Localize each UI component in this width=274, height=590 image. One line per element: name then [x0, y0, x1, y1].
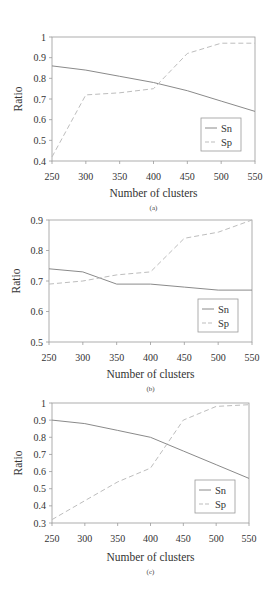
- x-tick-label: 500: [209, 533, 224, 544]
- x-tick-label: 300: [78, 171, 93, 182]
- x-tick-label: 550: [245, 352, 260, 363]
- figure: 0.40.50.60.70.80.91250300350400450500550…: [0, 0, 274, 590]
- chart-caption: (b): [146, 385, 155, 393]
- y-tick-label: 0.7: [31, 276, 44, 287]
- y-tick-label: 0.6: [34, 466, 47, 477]
- y-tick-label: 1: [41, 398, 46, 409]
- y-tick-label: 0.7: [34, 94, 47, 105]
- chart-a: 0.40.50.60.70.80.91250300350400450500550…: [12, 32, 263, 213]
- y-tick-label: 0.7: [34, 449, 47, 460]
- chart-b: 0.50.60.70.80.9250300350400450500550Rati…: [10, 215, 260, 394]
- y-axis-label: Ratio: [10, 268, 22, 293]
- y-tick-label: 0.9: [34, 52, 47, 63]
- x-tick-label: 450: [180, 171, 195, 182]
- y-tick-label: 0.9: [31, 215, 44, 226]
- legend-sp-label: Sp: [218, 318, 229, 329]
- legend-sn-label: Sn: [221, 123, 233, 134]
- x-tick-label: 400: [143, 533, 158, 544]
- x-tick-label: 450: [176, 533, 191, 544]
- y-tick-label: 0.8: [34, 432, 47, 443]
- y-tick-label: 0.9: [34, 415, 47, 426]
- legend-sp-label: Sp: [215, 499, 226, 510]
- x-tick-label: 250: [45, 171, 60, 182]
- x-tick-label: 500: [214, 171, 229, 182]
- y-tick-label: 0.6: [34, 114, 47, 125]
- x-tick-label: 550: [248, 171, 263, 182]
- legend-sn-label: Sn: [218, 304, 230, 315]
- x-tick-label: 300: [75, 352, 90, 363]
- legend-sn-label: Sn: [215, 485, 227, 496]
- series-sn-line: [52, 420, 249, 478]
- y-tick-label: 0.6: [31, 306, 44, 317]
- y-tick-label: 0.8: [31, 245, 44, 256]
- y-tick-label: 0.5: [34, 135, 47, 146]
- x-tick-label: 250: [45, 533, 60, 544]
- x-tick-label: 550: [242, 533, 257, 544]
- y-axis-label: Ratio: [12, 450, 24, 475]
- x-tick-label: 450: [177, 352, 192, 363]
- x-tick-label: 350: [112, 171, 127, 182]
- y-tick-label: 0.5: [31, 337, 44, 348]
- x-tick-label: 350: [109, 352, 124, 363]
- chart-caption: (c): [147, 568, 155, 576]
- x-axis-label: Number of clusters: [106, 368, 195, 380]
- y-tick-label: 0.4: [34, 500, 47, 511]
- x-axis-label: Number of clusters: [106, 551, 195, 563]
- legend: SnSp: [201, 118, 241, 151]
- x-tick-label: 350: [110, 533, 125, 544]
- legend: SnSp: [198, 299, 238, 332]
- x-tick-label: 250: [42, 352, 57, 363]
- y-tick-label: 0.8: [34, 73, 47, 84]
- series-sp-line: [49, 220, 252, 284]
- legend: SnSp: [195, 480, 235, 513]
- x-tick-label: 500: [211, 352, 226, 363]
- y-tick-label: 1: [41, 32, 46, 43]
- y-tick-label: 0.3: [34, 518, 47, 529]
- chart-c: 0.30.40.50.60.70.80.91250300350400450500…: [12, 398, 257, 577]
- legend-sp-label: Sp: [221, 137, 232, 148]
- x-tick-label: 400: [143, 352, 158, 363]
- series-sn-line: [49, 269, 252, 290]
- x-axis-label: Number of clusters: [109, 187, 198, 199]
- chart-caption: (a): [150, 204, 158, 212]
- y-tick-label: 0.4: [34, 156, 47, 167]
- y-axis-label: Ratio: [12, 86, 24, 111]
- x-tick-label: 300: [77, 533, 92, 544]
- x-tick-label: 400: [146, 171, 161, 182]
- y-tick-label: 0.5: [34, 483, 47, 494]
